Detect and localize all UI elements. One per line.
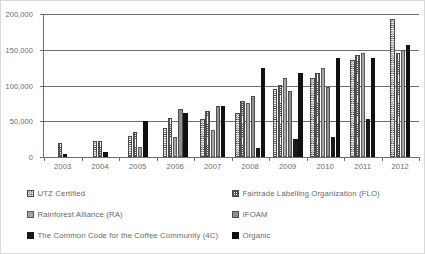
x-tick-mark <box>44 157 45 161</box>
bar-ra-2009 <box>283 78 287 157</box>
bar-organic-2006 <box>183 113 187 157</box>
bar-flo-2006 <box>168 118 172 157</box>
bar-group-2012 <box>382 14 420 157</box>
bar-organic-2009 <box>298 73 302 157</box>
legend-item-organic[interactable]: Organic <box>232 231 412 240</box>
bar-flo-2011 <box>355 55 359 157</box>
legend-label: Fairtrade Labelling Organization (FLO) <box>243 189 380 198</box>
y-axis-tick-label: 0 <box>29 153 33 162</box>
x-axis-label-2006: 2006 <box>157 162 195 171</box>
bar-flo-2010 <box>315 73 319 157</box>
bar-ra-2008 <box>246 103 250 157</box>
legend-swatch-organic-icon <box>232 232 239 239</box>
bar-ra-2012 <box>401 50 405 157</box>
legend-label: UTZ Certified <box>38 189 86 198</box>
y-tick-mark <box>40 86 43 87</box>
bar-utz-2006 <box>163 128 167 157</box>
bar-flo-2009 <box>278 85 282 157</box>
y-tick-mark <box>40 14 43 15</box>
bar-organic-2007 <box>221 106 225 157</box>
chart-legend: UTZ CertifiedFairtrade Labelling Organiz… <box>27 183 412 246</box>
bar-flo-2004 <box>98 141 102 157</box>
bar-organic-2008 <box>261 68 265 157</box>
y-axis-tick-label: 150,000 <box>6 45 33 54</box>
bar-flo-2008 <box>240 101 244 157</box>
bar-utz-2011 <box>350 60 354 157</box>
y-axis-tick-label: 200,000 <box>6 10 33 19</box>
x-tick-mark <box>82 157 83 161</box>
legend-label: The Common Code for the Coffee Community… <box>38 231 219 240</box>
legend-swatch-fourc-icon <box>27 232 34 239</box>
y-tick-mark <box>40 50 43 51</box>
bar-flo-2003 <box>58 143 62 157</box>
x-tick-mark <box>119 157 120 161</box>
bar-organic-2012 <box>406 45 410 157</box>
x-axis-label-2007: 2007 <box>194 162 232 171</box>
x-axis-label-2011: 2011 <box>344 162 382 171</box>
bar-group-2011 <box>344 14 382 157</box>
bar-ra-2006 <box>173 137 177 157</box>
x-tick-mark <box>419 157 420 161</box>
bar-utz-2010 <box>310 78 314 157</box>
legend-item-utz[interactable]: UTZ Certified <box>27 189 232 198</box>
x-axis-label-2003: 2003 <box>44 162 82 171</box>
legend-item-fourc[interactable]: The Common Code for the Coffee Community… <box>27 231 232 240</box>
bar-group-2007 <box>194 14 232 157</box>
bar-utz-2009 <box>273 89 277 157</box>
x-tick-mark <box>157 157 158 161</box>
certified-coffee-bar-chart: 050,000100,000150,000200,000 20032004200… <box>0 0 425 254</box>
bar-ifoam-2010 <box>326 87 330 157</box>
x-axis-label-2012: 2012 <box>382 162 420 171</box>
bar-ra-2010 <box>321 68 325 157</box>
bar-group-2009 <box>269 14 307 157</box>
legend-swatch-ifoam-icon <box>232 211 239 218</box>
bar-groups <box>44 14 419 157</box>
bar-group-2003 <box>44 14 82 157</box>
bar-flo-2007 <box>205 111 209 157</box>
bar-ra-2011 <box>361 53 365 157</box>
bar-group-2006 <box>157 14 195 157</box>
bar-flo-2005 <box>133 132 137 157</box>
legend-item-flo[interactable]: Fairtrade Labelling Organization (FLO) <box>232 189 412 198</box>
bar-organic-2005 <box>143 121 147 157</box>
x-tick-mark <box>307 157 308 161</box>
y-tick-mark <box>40 121 43 122</box>
y-axis-tick-label: 50,000 <box>10 117 33 126</box>
legend-label: Rainforest Alliance (RA) <box>38 210 123 219</box>
x-tick-mark <box>194 157 195 161</box>
bar-ifoam-2008 <box>251 96 255 157</box>
bar-fourc-2008 <box>256 148 260 157</box>
bar-ifoam-2006 <box>178 109 182 157</box>
x-axis-label-2008: 2008 <box>232 162 270 171</box>
legend-swatch-utz-icon <box>27 190 34 197</box>
bar-organic-2011 <box>371 58 375 157</box>
bar-ra-2005 <box>138 147 142 157</box>
bar-utz-2007 <box>200 119 204 157</box>
plot-area: 050,000100,000150,000200,000 <box>43 14 419 157</box>
bar-group-2010 <box>307 14 345 157</box>
x-axis-label-2005: 2005 <box>119 162 157 171</box>
bar-ifoam-2009 <box>288 91 292 157</box>
legend-item-ifoam[interactable]: IFOAM <box>232 210 412 219</box>
x-tick-mark <box>269 157 270 161</box>
x-axis-label-2004: 2004 <box>82 162 120 171</box>
bar-organic-2010 <box>336 58 340 157</box>
y-axis-tick-label: 100,000 <box>6 81 33 90</box>
x-tick-mark <box>344 157 345 161</box>
legend-label: Organic <box>243 231 271 240</box>
bar-ra-2007 <box>211 130 215 157</box>
bar-utz-2012 <box>390 19 394 157</box>
bar-group-2005 <box>119 14 157 157</box>
legend-swatch-ra-icon <box>27 211 34 218</box>
bar-fourc-2009 <box>293 139 297 157</box>
x-tick-mark <box>232 157 233 161</box>
legend-swatch-flo-icon <box>232 190 239 197</box>
bar-ifoam-2007 <box>216 106 220 157</box>
bar-utz-2008 <box>235 113 239 157</box>
bar-utz-2005 <box>128 136 132 157</box>
bar-fourc-2011 <box>366 119 370 157</box>
legend-item-ra[interactable]: Rainforest Alliance (RA) <box>27 210 232 219</box>
bar-utz-2004 <box>93 141 97 157</box>
x-axis-label-2010: 2010 <box>307 162 345 171</box>
x-axis-label-2009: 2009 <box>269 162 307 171</box>
